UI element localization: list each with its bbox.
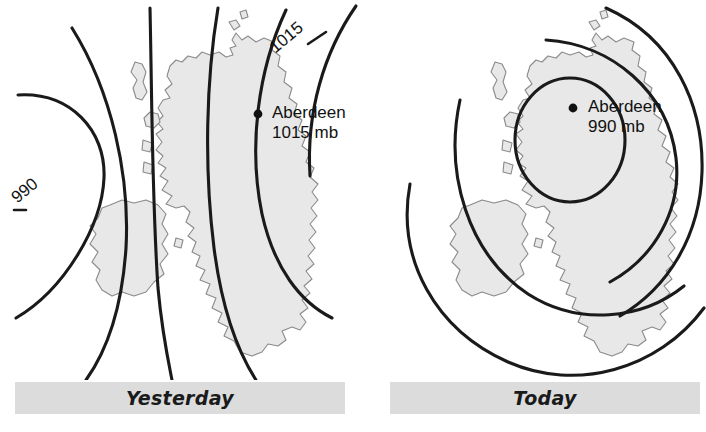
outer-hebrides-outline [491,62,507,100]
islay-island-outline [503,162,513,174]
british-isles-landmass-today [450,10,678,356]
caption-bar-yesterday: Yesterday [15,382,345,414]
aberdeen-name-today: Aberdeen [588,97,662,117]
great-britain-outline [156,33,318,356]
ireland-outline [450,200,528,296]
aberdeen-station-dot [254,110,263,119]
aberdeen-annotation-today: Aberdeen 990 mb [588,97,662,137]
mull-island-outline [142,140,152,152]
shetland-islands-outline [600,10,608,19]
caption-label-today: Today [513,387,576,409]
isobar-990-line [16,95,104,318]
aberdeen-name-yesterday: Aberdeen [272,103,346,123]
caption-bar-today: Today [390,382,700,414]
aberdeen-pressure-today: 990 mb [588,117,662,137]
caption-label-yesterday: Yesterday [126,387,234,409]
shetland-islands-outline [240,10,248,19]
mull-island-outline [502,140,512,152]
aberdeen-annotation-yesterday: Aberdeen 1015 mb [272,103,346,143]
aberdeen-station-dot [569,104,578,113]
outer-hebrides-outline [131,62,147,100]
weather-map-figure: 990 1015 Aberdeen 1015 mb [0,0,706,432]
isobar-1020-line [309,6,356,176]
panel-today [380,0,706,380]
isle-of-man-outline [534,238,543,248]
orkney-islands-outline [589,20,600,30]
isle-of-man-outline [174,238,183,248]
leader-1015 [308,32,326,44]
today-map-svg [380,0,706,380]
orkney-islands-outline [229,20,240,30]
yesterday-map-svg [0,0,380,380]
aberdeen-pressure-yesterday: 1015 mb [272,123,346,143]
panel-yesterday [0,0,380,380]
